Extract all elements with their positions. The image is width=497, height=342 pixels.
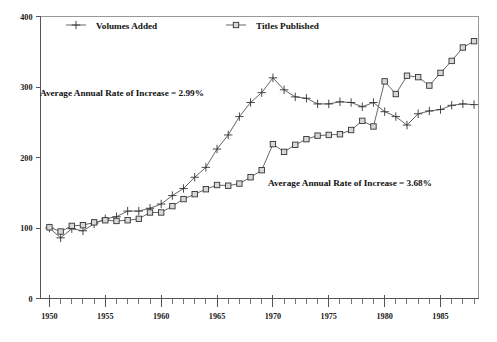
series-volumes-added — [45, 74, 478, 242]
datapoint-0-1957 — [123, 207, 131, 215]
datapoint-1-1979 — [371, 124, 376, 129]
datapoint-0-1967 — [235, 112, 243, 120]
series-path-1 — [49, 41, 474, 231]
datapoint-0-1986 — [447, 101, 455, 109]
chart-container: 0100200300400 19501955196019651970197519… — [0, 0, 497, 342]
y-tick-label-400: 400 — [20, 13, 32, 22]
datapoint-1-1950 — [47, 225, 52, 230]
datapoint-1-1985 — [438, 70, 443, 75]
datapoint-1-1972 — [293, 142, 298, 147]
y-tick-label-100: 100 — [20, 224, 32, 233]
datapoint-1-1955 — [103, 218, 108, 223]
datapoint-0-1958 — [135, 207, 143, 215]
datapoint-1-1977 — [348, 127, 353, 132]
plot-frame — [41, 17, 479, 299]
annotation-rate-volumes: Average Annual Rate of Increase = 2.99% — [40, 88, 204, 98]
datapoint-0-1960 — [157, 200, 165, 208]
datapoint-1-1984 — [427, 83, 432, 88]
datapoint-0-1965 — [213, 145, 221, 153]
datapoint-0-1978 — [358, 103, 366, 111]
chart-legend: Volumes AddedTitles Published — [66, 21, 319, 31]
datapoint-1-1963 — [192, 191, 197, 196]
datapoint-1-1970 — [270, 141, 275, 146]
datapoint-1-1986 — [449, 58, 454, 63]
datapoint-1-1983 — [415, 74, 420, 79]
datapoint-1-1951 — [58, 229, 63, 234]
datapoint-0-1973 — [302, 94, 310, 102]
x-tick-label-1960: 1960 — [153, 312, 169, 321]
y-tick-label-200: 200 — [20, 154, 32, 163]
datapoint-1-1958 — [136, 216, 141, 221]
frame-top-right — [41, 17, 479, 299]
datapoint-1-1981 — [393, 91, 398, 96]
y-tick-label-0: 0 — [28, 295, 32, 304]
datapoint-1-1974 — [315, 133, 320, 138]
legend-item-volumes-added[interactable]: Volumes Added — [66, 21, 157, 31]
datapoint-1-1969 — [259, 167, 264, 172]
datapoint-1-1968 — [248, 175, 253, 180]
datapoint-1-1952 — [69, 223, 74, 228]
annotation-rate-titles: Average Annual Rate of Increase = 3.68% — [268, 178, 432, 188]
datapoint-0-1972 — [291, 93, 299, 101]
datapoint-0-1976 — [336, 98, 344, 106]
datapoint-0-1984 — [425, 107, 433, 115]
datapoint-1-1988 — [471, 38, 476, 43]
legend-label: Titles Published — [256, 21, 319, 31]
datapoint-1-1982 — [404, 73, 409, 78]
x-axis: 19501955196019651970197519801985 — [41, 295, 479, 321]
datapoint-1-1967 — [237, 181, 242, 186]
legend-marker-cross-icon — [72, 21, 80, 29]
datapoint-1-1962 — [181, 196, 186, 201]
datapoint-0-1975 — [325, 100, 333, 108]
data-series-group — [45, 38, 478, 242]
datapoint-1-1964 — [203, 187, 208, 192]
datapoint-1-1980 — [382, 79, 387, 84]
datapoint-1-1965 — [214, 182, 219, 187]
datapoint-1-1973 — [304, 136, 309, 141]
series-titles-published — [47, 38, 477, 234]
datapoint-1-1987 — [460, 45, 465, 50]
x-tick-label-1950: 1950 — [41, 312, 57, 321]
datapoint-0-1974 — [313, 100, 321, 108]
x-tick-label-1980: 1980 — [376, 312, 392, 321]
datapoint-1-1976 — [337, 132, 342, 137]
datapoint-1-1961 — [170, 203, 175, 208]
datapoint-1-1953 — [80, 222, 85, 227]
datapoint-0-1985 — [436, 105, 444, 113]
datapoint-1-1954 — [91, 220, 96, 225]
x-tick-label-1955: 1955 — [97, 312, 113, 321]
datapoint-1-1957 — [125, 218, 130, 223]
datapoint-1-1978 — [360, 118, 365, 123]
x-tick-label-1970: 1970 — [265, 312, 281, 321]
series-path-0 — [49, 78, 474, 238]
datapoint-1-1959 — [147, 210, 152, 215]
y-axis: 0100200300400 — [20, 13, 40, 304]
datapoint-1-1956 — [114, 218, 119, 223]
datapoint-0-1987 — [459, 100, 467, 108]
datapoint-1-1971 — [281, 149, 286, 154]
datapoint-0-1977 — [347, 98, 355, 106]
datapoint-0-1961 — [168, 191, 176, 199]
x-tick-label-1975: 1975 — [321, 312, 337, 321]
datapoint-0-1981 — [392, 112, 400, 120]
y-tick-label-300: 300 — [20, 83, 32, 92]
datapoint-0-1966 — [224, 131, 232, 139]
datapoint-0-1988 — [470, 100, 478, 108]
datapoint-1-1960 — [158, 210, 163, 215]
line-chart: 0100200300400 19501955196019651970197519… — [0, 0, 497, 342]
x-tick-label-1985: 1985 — [432, 312, 448, 321]
datapoint-1-1966 — [226, 183, 231, 188]
x-tick-label-1965: 1965 — [209, 312, 225, 321]
legend-label: Volumes Added — [96, 21, 157, 31]
legend-marker-square-icon — [233, 22, 238, 27]
legend-item-titles-published[interactable]: Titles Published — [226, 21, 319, 31]
datapoint-1-1975 — [326, 132, 331, 137]
